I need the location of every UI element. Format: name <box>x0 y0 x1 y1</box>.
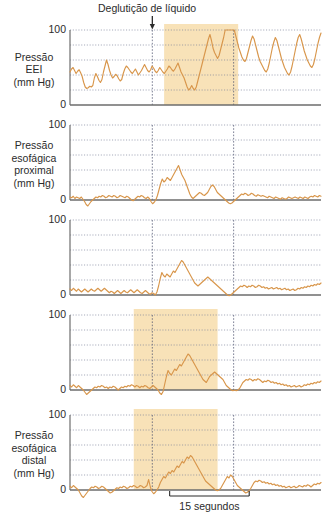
ytick-top-pressao-esofagica-distal: 100 <box>36 408 66 420</box>
axis-label-pressao-esofagica-distal: Pressãoesofágicadistal(mm Hg) <box>0 429 68 479</box>
ytick-bottom-pressao-esofagica-media: 0 <box>36 288 66 300</box>
panel-pressao-esofagica-distal <box>70 409 321 498</box>
panel-pressao-esofagica-proximal <box>70 125 321 206</box>
ytick-top-pressao-esofagica-media: 100 <box>36 213 66 225</box>
ytick-top-pressao-esofagica-proximal: 100 <box>36 118 66 130</box>
time-scale-bar <box>170 491 250 496</box>
panel-pressao-esofagica-distal-superior <box>70 309 321 395</box>
ytick-bottom-pressao-esofagica-distal: 0 <box>36 483 66 495</box>
panel-pressao-esofagica-media <box>70 220 321 296</box>
swallow-band <box>164 24 238 105</box>
ytick-bottom-pressao-esofagica-distal-superior: 0 <box>36 383 66 395</box>
axis-label-pressao-eei: PressãoEEI(mm Hg) <box>0 51 68 89</box>
panel-pressao-eei <box>70 24 321 105</box>
time-scale-label: 15 segundos <box>150 500 270 512</box>
axis-label-pressao-esofagica-proximal: Pressãoesofágicaproximal(mm Hg) <box>0 139 68 189</box>
swallow-band <box>134 309 218 390</box>
ytick-top-pressao-esofagica-distal-superior: 100 <box>36 308 66 320</box>
ytick-top-pressao-eei: 100 <box>36 23 66 35</box>
ytick-bottom-pressao-esofagica-proximal: 0 <box>36 193 66 205</box>
pressure-trace <box>70 261 321 296</box>
swallow-band <box>134 409 218 490</box>
down-arrow-icon <box>150 16 155 30</box>
ytick-bottom-pressao-eei: 0 <box>36 98 66 110</box>
swallow-annotation-label: Deglutição de líquido <box>98 2 196 14</box>
